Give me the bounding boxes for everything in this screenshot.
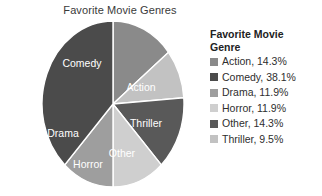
chart-legend: Favorite Movie Genre Action, 14.3%Comedy… — [210, 28, 320, 147]
legend-title-line2: Genre — [210, 41, 240, 53]
legend-swatch — [210, 120, 218, 128]
legend-item: Comedy, 38.1% — [210, 70, 320, 86]
slice-label-thriller: Thriller — [130, 117, 163, 129]
legend-item: Horror, 11.9% — [210, 101, 320, 117]
legend-item: Other, 14.3% — [210, 116, 320, 132]
slice-label-action: Action — [126, 81, 155, 93]
chart-title: Favorite Movie Genres — [40, 4, 200, 16]
pie-chart-svg: Comedy Action Thriller Other Horror Dram… — [42, 21, 184, 187]
slice-label-horror: Horror — [73, 158, 103, 170]
legend-title-line1: Favorite Movie — [210, 28, 284, 40]
legend-swatch — [210, 89, 218, 97]
slice-label-comedy: Comedy — [62, 57, 102, 69]
legend-label: Comedy, 38.1% — [222, 72, 296, 83]
legend-label: Drama, 11.9% — [222, 87, 288, 98]
slice-label-other: Other — [109, 147, 136, 159]
pie-chart-plot-area: Comedy Action Thriller Other Horror Dram… — [42, 21, 184, 187]
legend-label: Action, 14.3% — [222, 56, 287, 67]
legend-swatch — [210, 104, 218, 112]
legend-label: Other, 14.3% — [222, 118, 283, 129]
legend-label: Thriller, 9.5% — [222, 134, 283, 145]
legend-item: Drama, 11.9% — [210, 85, 320, 101]
legend-swatch — [210, 135, 218, 143]
legend-item: Thriller, 9.5% — [210, 132, 320, 148]
legend-swatch — [210, 73, 218, 81]
legend-item-list: Action, 14.3%Comedy, 38.1%Drama, 11.9%Ho… — [210, 54, 320, 147]
slice-label-drama: Drama — [47, 127, 79, 139]
pie-slice-group — [42, 21, 184, 187]
legend-swatch — [210, 58, 218, 66]
pie-chart-figure: Favorite Movie Genres Comedy Action Thri… — [0, 0, 322, 196]
legend-title: Favorite Movie Genre — [210, 28, 302, 53]
legend-item: Action, 14.3% — [210, 54, 320, 70]
legend-label: Horror, 11.9% — [222, 103, 286, 114]
